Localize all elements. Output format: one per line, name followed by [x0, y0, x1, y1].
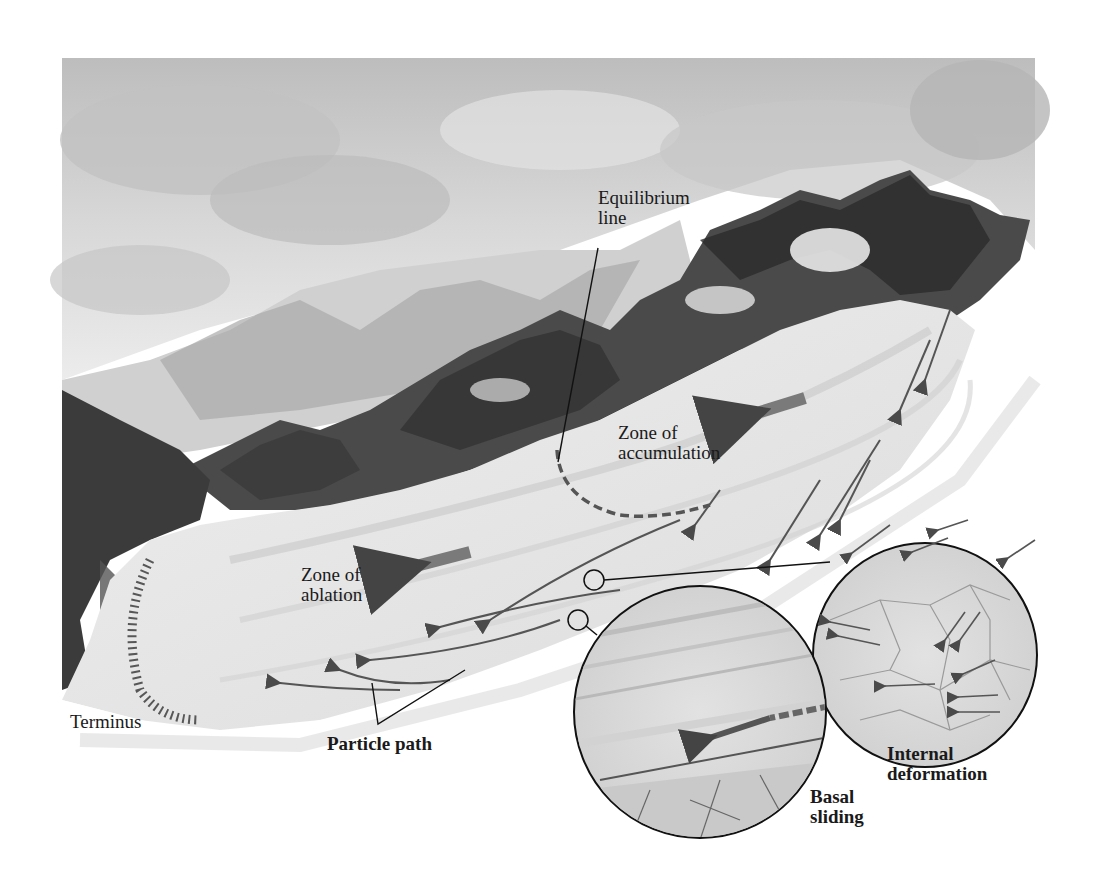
glacier-diagram: Equilibrium line Zone of accumulation Zo…	[0, 0, 1117, 879]
label-equilibrium-line: Equilibrium line	[598, 188, 690, 228]
label-line-2: sliding	[810, 807, 864, 827]
label-line-2: accumulation	[618, 443, 720, 463]
label-zone-of-ablation: Zone of ablation	[301, 565, 362, 605]
label-internal-deformation: Internal deformation	[887, 744, 987, 784]
label-line-1: Zone of	[301, 565, 362, 585]
label-line-1: Equilibrium	[598, 188, 690, 208]
label-line-2: ablation	[301, 585, 362, 605]
label-line-1: Zone of	[618, 423, 720, 443]
label-basal-sliding: Basal sliding	[810, 787, 864, 827]
label-particle-path: Particle path	[327, 734, 432, 754]
label-line-1: Internal	[887, 744, 987, 764]
label-terminus: Terminus	[70, 712, 142, 732]
label-line-2: deformation	[887, 764, 987, 784]
label-line-1: Basal	[810, 787, 864, 807]
label-line-2: line	[598, 208, 690, 228]
label-zone-of-accumulation: Zone of accumulation	[618, 423, 720, 463]
